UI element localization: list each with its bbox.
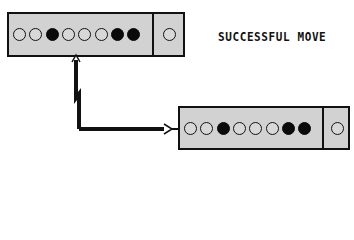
destination-register [178,106,350,150]
hollow-circle-icon [233,122,246,135]
filled-circle-icon [282,122,295,135]
hollow-circle-icon [184,122,197,135]
hollow-circle-icon [331,122,344,135]
hollow-circle-icon [266,122,279,135]
filled-circle-icon [298,122,311,135]
hollow-circle-icon [249,122,262,135]
filled-circle-icon [217,122,230,135]
register-divider [322,108,324,148]
hollow-circle-icon [200,122,213,135]
